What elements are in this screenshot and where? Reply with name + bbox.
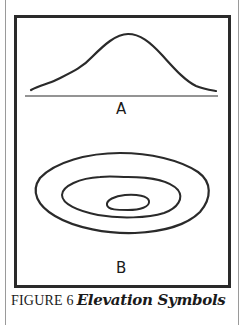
panel-a-label: A: [116, 100, 126, 118]
figure-title: Elevation Symbols: [77, 291, 226, 309]
figure-caption: FIGURE 6Elevation Symbols: [11, 290, 226, 309]
hill-profile-curve: [31, 34, 216, 91]
figure-number: FIGURE 6: [11, 293, 74, 308]
panel-b-label: B: [116, 259, 126, 277]
inner-contour: [107, 195, 149, 210]
middle-contour: [62, 177, 180, 218]
